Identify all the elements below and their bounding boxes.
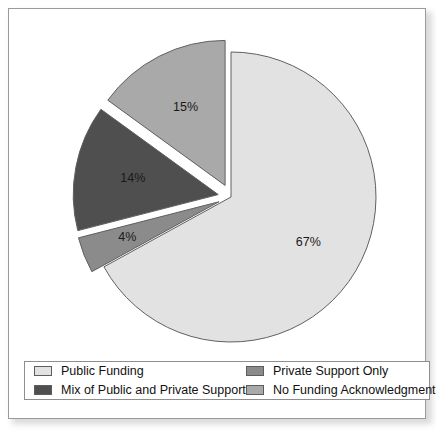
figure-outer-frame: 67%4%14%15% Public Funding Private Suppo… bbox=[8, 8, 426, 419]
pie-slice-data-label: 14% bbox=[120, 171, 145, 185]
pie-slice-data-label: 4% bbox=[118, 230, 136, 244]
legend-swatch-no-funding-acknowledgment bbox=[246, 385, 264, 395]
legend-item-no-funding-acknowledgment[interactable]: No Funding Acknowledgment bbox=[237, 381, 436, 400]
pie-slices-group bbox=[73, 40, 376, 342]
legend-grid: Public Funding Private Support Only Mix … bbox=[25, 362, 429, 399]
legend-swatch-private-support-only bbox=[246, 366, 264, 376]
legend-label-mix-of-public-and-private-support: Mix of Public and Private Support bbox=[61, 384, 246, 397]
legend-label-private-support-only: Private Support Only bbox=[273, 365, 388, 378]
pie-plot-area: 67%4%14%15% bbox=[18, 18, 434, 354]
legend-item-public-funding[interactable]: Public Funding bbox=[25, 362, 237, 381]
pie-chart-svg: 67%4%14%15% bbox=[18, 18, 434, 354]
chart-legend: Public Funding Private Support Only Mix … bbox=[24, 361, 430, 400]
legend-item-mix-of-public-and-private-support[interactable]: Mix of Public and Private Support bbox=[25, 381, 237, 400]
legend-label-no-funding-acknowledgment: No Funding Acknowledgment bbox=[273, 384, 436, 397]
legend-swatch-mix-of-public-and-private-support bbox=[34, 385, 52, 395]
pie-chart-figure: 67%4%14%15% Public Funding Private Suppo… bbox=[0, 0, 437, 436]
pie-slice-data-label: 67% bbox=[296, 235, 321, 249]
legend-label-public-funding: Public Funding bbox=[61, 365, 144, 378]
legend-swatch-public-funding bbox=[34, 366, 52, 376]
pie-slice-data-label: 15% bbox=[173, 100, 198, 114]
legend-item-private-support-only[interactable]: Private Support Only bbox=[237, 362, 436, 381]
